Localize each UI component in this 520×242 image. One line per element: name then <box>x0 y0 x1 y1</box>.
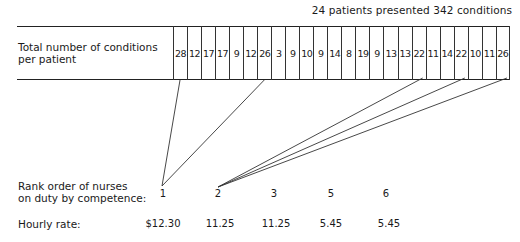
hourly-rate-value: 11.25 <box>206 218 235 229</box>
hourly-rate-value: 5.45 <box>378 218 400 229</box>
rank-order-label-line2: on duty by competence: <box>18 192 146 204</box>
rank-value: 5 <box>328 188 334 199</box>
assignment-line <box>218 78 465 187</box>
hourly-rate-label: Hourly rate: <box>18 218 81 230</box>
hourly-rate-value: 5.45 <box>320 218 342 229</box>
rank-value: 6 <box>383 188 389 199</box>
assignment-line <box>218 78 507 187</box>
hourly-rate-value: 11.25 <box>262 218 291 229</box>
rank-value: 1 <box>160 188 166 199</box>
assignment-line <box>218 78 423 187</box>
hourly-rate-value: $12.30 <box>146 218 181 229</box>
assignment-lines <box>0 0 520 242</box>
rank-value: 2 <box>215 188 221 199</box>
rank-value: 3 <box>271 188 277 199</box>
rank-order-label-line1: Rank order of nurses <box>18 180 146 192</box>
rank-order-label: Rank order of nurses on duty by competen… <box>18 180 146 204</box>
